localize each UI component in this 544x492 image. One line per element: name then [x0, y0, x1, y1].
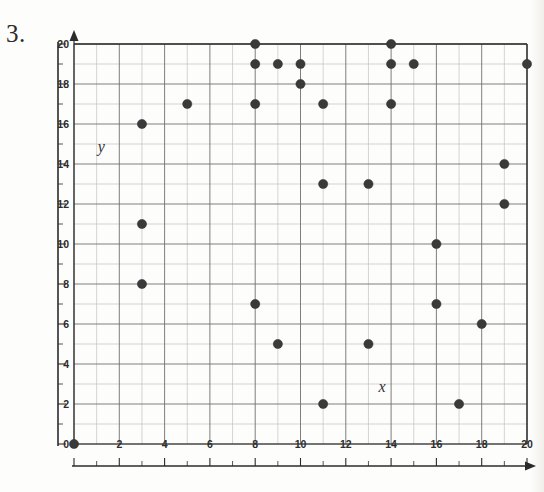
data-point	[137, 119, 146, 128]
y-axis-arrow	[70, 30, 79, 41]
data-point	[319, 99, 328, 108]
data-point	[251, 299, 260, 308]
y-tick-label: 16	[57, 118, 69, 130]
data-point	[137, 219, 146, 228]
x-tick-label: 16	[431, 438, 443, 450]
data-point	[319, 399, 328, 408]
data-point	[296, 79, 305, 88]
y-tick-label: 12	[57, 198, 69, 210]
data-point	[273, 339, 282, 348]
y-tick-label: 18	[57, 78, 69, 90]
x-tick-label: 6	[207, 438, 213, 450]
y-tick-label: 2	[63, 398, 69, 410]
y-tick-label: 0	[63, 438, 69, 450]
y-tick-label: 14	[57, 158, 69, 170]
data-point	[387, 59, 396, 68]
x-axis-arrow	[525, 462, 536, 471]
data-point	[183, 99, 192, 108]
x-tick-label: 2	[116, 438, 122, 450]
data-point	[251, 59, 260, 68]
x-axis-label: x	[377, 378, 385, 395]
data-point	[387, 39, 396, 48]
data-point	[273, 59, 282, 68]
y-tick-label: 10	[57, 238, 69, 250]
data-point	[432, 239, 441, 248]
data-point	[387, 99, 396, 108]
x-tick-label: 14	[385, 438, 397, 450]
data-point	[296, 59, 305, 68]
axis-name-labels: yx	[96, 138, 386, 395]
y-tick-label: 20	[57, 38, 69, 50]
y-tick-label: 6	[63, 318, 69, 330]
y-axis-tick-labels: 02468101214161820	[57, 38, 69, 450]
data-point	[409, 59, 418, 68]
data-point	[500, 199, 509, 208]
data-point	[522, 59, 531, 68]
data-point	[477, 319, 486, 328]
y-tick-label: 4	[63, 358, 69, 370]
scatter-chart: 02468101214161820 02468101214161820 yx	[0, 0, 544, 492]
y-axis-label: y	[96, 138, 106, 156]
x-tick-label: 12	[340, 438, 352, 450]
x-tick-label: 4	[162, 438, 168, 450]
data-point	[454, 399, 463, 408]
x-tick-label: 20	[521, 438, 533, 450]
data-point	[364, 339, 373, 348]
scatter-plot-figure: 02468101214161820 02468101214161820 yx	[0, 0, 544, 492]
data-point	[251, 39, 260, 48]
x-tick-label: 18	[476, 438, 488, 450]
y-tick-label: 8	[63, 278, 69, 290]
data-point	[251, 99, 260, 108]
data-point	[500, 159, 509, 168]
data-point	[432, 299, 441, 308]
data-point	[319, 179, 328, 188]
x-tick-label: 8	[252, 438, 258, 450]
data-point	[69, 439, 78, 448]
data-point	[137, 279, 146, 288]
x-tick-label: 10	[295, 438, 307, 450]
data-point	[364, 179, 373, 188]
